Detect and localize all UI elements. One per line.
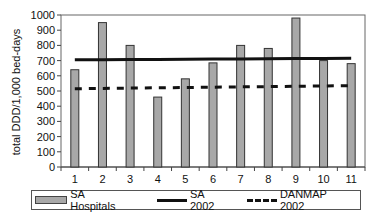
- x-axis: 1234567891011: [61, 167, 365, 185]
- legend-item-sa-2002: SA 2002: [139, 188, 229, 212]
- x-tick-label: 8: [265, 173, 271, 185]
- x-tick-label: 6: [210, 173, 216, 185]
- bar: [320, 61, 328, 167]
- x-tick-label: 2: [99, 173, 105, 185]
- x-tick-label: 3: [127, 173, 133, 185]
- y-tick-label: 1000: [31, 9, 55, 21]
- y-axis: 01002003004005006007008009001000: [31, 9, 365, 173]
- legend-label: DANMAP 2002: [280, 188, 350, 212]
- x-tick-label: 11: [345, 173, 356, 185]
- y-tick-label: 400: [37, 100, 55, 112]
- bar: [71, 70, 79, 167]
- bar: [126, 45, 134, 167]
- dashed-line-icon: [247, 199, 277, 202]
- y-tick-label: 100: [37, 146, 55, 158]
- x-tick-label: 7: [238, 173, 244, 185]
- y-tick-label: 800: [37, 39, 55, 51]
- chart: 01002003004005006007008009001000 1234567…: [0, 0, 380, 190]
- solid-series-line: [75, 58, 351, 60]
- x-tick-label: 10: [317, 173, 329, 185]
- x-tick-label: 1: [72, 173, 78, 185]
- bar-series-sa-hospitals: [71, 18, 355, 167]
- y-tick-label: 0: [49, 161, 55, 173]
- y-tick-label: 600: [37, 70, 55, 82]
- legend-label: SA 2002: [190, 188, 229, 212]
- bar: [292, 18, 300, 167]
- y-tick-label: 900: [37, 24, 55, 36]
- bar: [154, 97, 162, 167]
- y-tick-label: 300: [37, 115, 55, 127]
- bar: [98, 23, 106, 167]
- legend-item-danmap-2002: DANMAP 2002: [239, 188, 350, 212]
- y-tick-label: 700: [37, 55, 55, 67]
- y-tick-label: 200: [37, 131, 55, 143]
- legend-label: SA Hospitals: [70, 188, 129, 212]
- x-tick-label: 5: [182, 173, 188, 185]
- bar: [181, 79, 189, 167]
- legend: SA Hospitals SA 2002 DANMAP 2002: [31, 190, 361, 210]
- y-axis-title: total DDD/1,000 bed-days: [10, 28, 22, 155]
- bar-swatch-icon: [35, 196, 67, 204]
- x-tick-label: 4: [155, 173, 161, 185]
- x-tick-label: 9: [293, 173, 299, 185]
- y-tick-label: 500: [37, 85, 55, 97]
- bar: [347, 64, 355, 167]
- bar: [237, 45, 245, 167]
- legend-item-sa-hospitals: SA Hospitals: [32, 188, 129, 212]
- solid-line-icon: [157, 199, 187, 202]
- bar: [264, 48, 272, 167]
- bar: [209, 63, 217, 167]
